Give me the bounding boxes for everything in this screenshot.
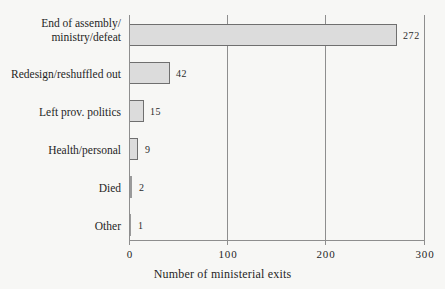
tick-mark-0 [129,240,130,245]
bar-value-label: 272 [403,30,420,41]
x-tick-label-0: 0 [127,248,133,260]
gridline-300 [424,15,425,240]
category-label-died: Died [0,182,121,196]
plot-area: 272 42 15 9 2 1 [129,15,425,240]
y-axis-line [129,15,130,241]
bar-value-label: 9 [145,144,151,155]
category-label-left-prov-politics: Left prov. politics [0,106,121,120]
bar-value-label: 2 [139,182,145,193]
bar-value-label: 42 [176,68,187,79]
bar-end-of-assembly[interactable] [129,24,397,46]
x-tick-label-300: 300 [416,248,435,260]
x-axis-line [129,240,425,241]
bar-left-prov-politics[interactable] [129,100,144,122]
x-axis-title: Number of ministerial exits [0,267,445,282]
bar-value-label: 15 [150,106,161,117]
bar-redesign-reshuffled-out[interactable] [129,62,170,84]
tick-mark-300 [424,240,425,245]
gridline-100 [227,15,228,240]
category-label-end-of-assembly: End of assembly/ ministry/defeat [0,17,121,44]
bar-health-personal[interactable] [129,138,138,160]
bar-value-label: 1 [138,220,144,231]
x-tick-label-100: 100 [219,248,238,260]
gridline-200 [325,15,326,240]
tick-mark-100 [227,240,228,245]
category-label-health-personal: Health/personal [0,144,121,158]
bar-chart: 272 42 15 9 2 1 End of assembly/ ministr [0,0,445,289]
category-label-redesign-reshuffled-out: Redesign/reshuffled out [0,68,121,82]
tick-mark-200 [325,240,326,245]
category-label-other: Other [0,220,121,234]
x-tick-label-200: 200 [317,248,336,260]
